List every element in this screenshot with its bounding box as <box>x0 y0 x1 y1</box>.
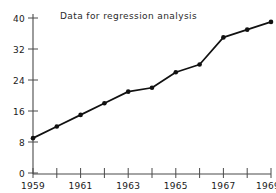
line-chart: Data for regression analysis 0 8 16 24 3… <box>0 0 276 193</box>
data-point: 1960: 12 <box>55 124 60 129</box>
chart-screenshot: Data for regression analysis 0 8 16 24 3… <box>0 0 276 193</box>
y-tick-label: 16 <box>13 107 25 117</box>
data-point: 1968: 37 <box>245 27 250 32</box>
y-axis-ticks: 0 8 16 24 32 40 <box>13 14 38 179</box>
data-point: 1967: 35 <box>221 35 226 40</box>
data-point: 1965: 26 <box>174 70 179 75</box>
data-point: 1963: 21 <box>126 89 131 94</box>
chart-title: Data for regression analysis <box>60 11 197 21</box>
data-point: 1962: 18 <box>102 101 107 106</box>
x-tick-label: 1965 <box>164 181 188 191</box>
y-tick-label: 24 <box>13 76 25 86</box>
y-tick-label: 8 <box>19 138 25 148</box>
data-point: 1969: 39 <box>269 20 274 25</box>
data-point: 1964: 22 <box>150 85 155 90</box>
y-tick-label: 0 <box>19 169 25 179</box>
x-tick-label: 1967 <box>211 181 235 191</box>
y-tick-label: 32 <box>13 45 25 55</box>
data-point: 1961: 15 <box>78 113 83 118</box>
data-line-series <box>33 22 271 138</box>
x-tick-label: 1959 <box>21 181 45 191</box>
y-tick-label: 40 <box>13 14 25 24</box>
x-axis-ticks <box>33 168 271 178</box>
x-axis-labels: 1959 1961 1963 1965 1967 1969 <box>21 181 276 191</box>
data-point: 1966: 28 <box>197 62 202 67</box>
x-tick-label: 1963 <box>116 181 140 191</box>
data-point: 1959: 9 <box>31 136 36 141</box>
x-tick-label: 1961 <box>69 181 93 191</box>
x-tick-label: 1969 <box>256 181 276 191</box>
